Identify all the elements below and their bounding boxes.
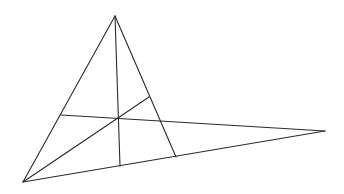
altitude-from-a bbox=[115, 16, 120, 166]
side-ab bbox=[23, 16, 115, 182]
altitude-from-c bbox=[61, 115, 325, 131]
altitude-from-b bbox=[23, 97, 149, 182]
side-bc bbox=[23, 131, 325, 182]
side-a-to-bc bbox=[115, 16, 176, 157]
diagram-segments bbox=[23, 16, 325, 182]
triangle-altitudes-diagram bbox=[0, 0, 344, 194]
